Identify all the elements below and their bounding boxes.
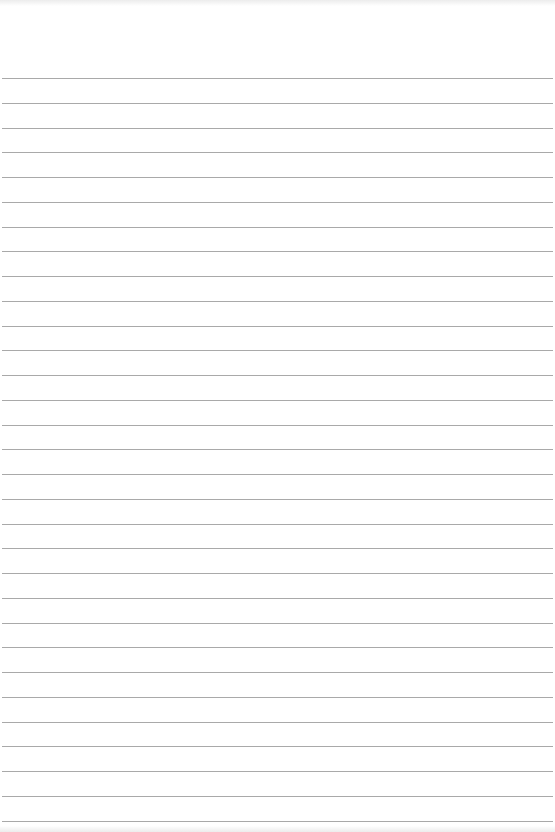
ruled-line	[2, 796, 553, 797]
ruled-line	[2, 499, 553, 500]
ruled-line	[2, 746, 553, 747]
ruled-line	[2, 425, 553, 426]
ruled-line	[2, 672, 553, 673]
ruled-line	[2, 474, 553, 475]
ruled-line	[2, 647, 553, 648]
ruled-line	[2, 202, 553, 203]
ruled-line	[2, 722, 553, 723]
ruled-line	[2, 598, 553, 599]
bottom-edge	[0, 826, 555, 832]
ruled-line	[2, 375, 553, 376]
ruled-line	[2, 152, 553, 153]
ruled-line	[2, 623, 553, 624]
ruled-line	[2, 350, 553, 351]
ruled-line	[2, 227, 553, 228]
ruled-line	[2, 78, 553, 79]
ruled-line	[2, 548, 553, 549]
ruled-line	[2, 326, 553, 327]
lined-paper-sheet	[0, 0, 555, 832]
ruled-line	[2, 821, 553, 822]
ruled-line	[2, 524, 553, 525]
ruled-line	[2, 400, 553, 401]
ruled-line	[2, 103, 553, 104]
ruled-line	[2, 771, 553, 772]
ruled-line	[2, 697, 553, 698]
top-edge	[0, 0, 555, 6]
ruled-line	[2, 573, 553, 574]
ruled-line	[2, 301, 553, 302]
ruled-line	[2, 128, 553, 129]
ruled-line	[2, 276, 553, 277]
ruled-line	[2, 177, 553, 178]
ruled-line	[2, 449, 553, 450]
ruled-line	[2, 251, 553, 252]
